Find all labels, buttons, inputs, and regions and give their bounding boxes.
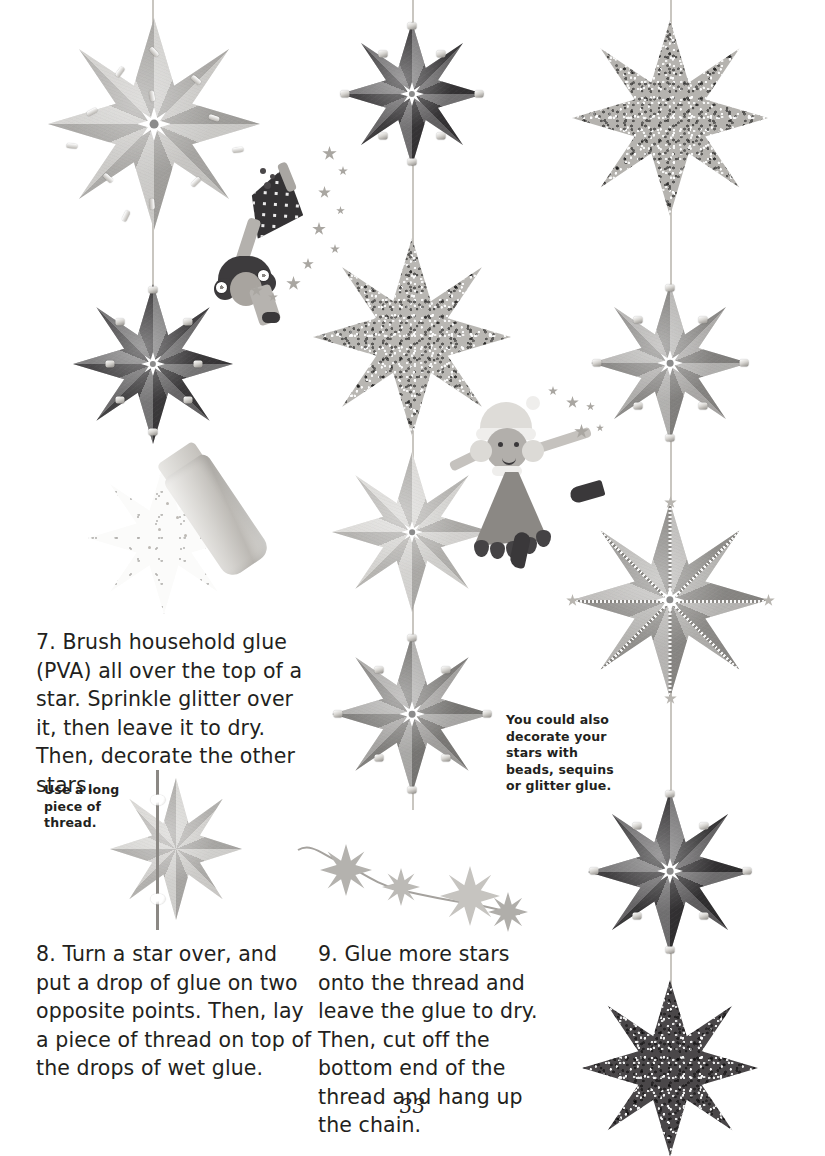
hair-flower-left <box>216 282 227 293</box>
fairy-hat-pompom <box>526 396 540 410</box>
note-use-long-thread: Use a long piece of thread. <box>44 782 136 832</box>
fairy-boot-right <box>568 480 605 505</box>
fairy-eye-left <box>498 442 503 447</box>
hair-flower-right <box>258 270 269 281</box>
page-number: 33 <box>0 1094 825 1118</box>
chain-star-1 <box>320 844 372 896</box>
chain-star-3 <box>440 866 500 926</box>
star-left-1-center <box>137 107 171 141</box>
star-chain-thread <box>296 838 528 918</box>
star-with-thread-icon <box>110 778 242 920</box>
step-8-text: 8. Turn a star over, and put a drop of g… <box>36 940 318 1083</box>
star-right-5 <box>582 980 758 1156</box>
glitter-texture <box>582 980 758 1156</box>
glue-drop-bottom <box>151 894 166 905</box>
star-right-3-center <box>656 586 684 614</box>
chain-star-2 <box>382 868 420 906</box>
chain-star-4 <box>488 892 528 932</box>
fairy-eye-right <box>514 442 519 447</box>
fairy-shoe-2 <box>262 312 280 323</box>
note-decorate-with-beads: You could also decorate your stars with … <box>506 712 616 795</box>
star-mid-3-center <box>401 521 423 543</box>
fairy-with-flowers-icon <box>206 160 356 330</box>
star-right-4-center <box>657 858 683 884</box>
star-right-1 <box>572 20 768 216</box>
paper-grain <box>110 778 242 920</box>
fairy-in-dress-icon <box>444 396 614 576</box>
glue-drop-top <box>151 795 166 806</box>
fairy-hair-right <box>522 440 544 462</box>
glitter-texture <box>572 20 768 216</box>
star-mid-1-center <box>400 82 424 106</box>
star-right-2-center <box>657 350 683 376</box>
star-left-2-center <box>141 352 165 376</box>
star-mid-4-center <box>399 701 425 727</box>
fairy-hair-left <box>470 440 492 462</box>
step-7-text: 7. Brush household glue (PVA) all over t… <box>36 628 304 799</box>
